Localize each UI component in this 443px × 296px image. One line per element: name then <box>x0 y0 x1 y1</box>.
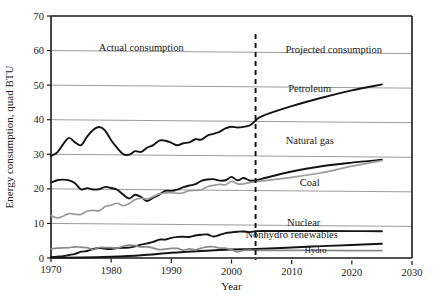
x-tick-label-1990: 1990 <box>161 265 182 276</box>
x-tick-label-1970: 1970 <box>41 264 62 275</box>
y-tick-label-50: 50 <box>34 80 45 91</box>
x-tick-label-2010: 2010 <box>281 266 302 277</box>
y-tick-label-60: 60 <box>34 45 45 56</box>
y-tick-label-0: 0 <box>39 253 44 264</box>
series-label-hydro: Hydro <box>305 245 327 255</box>
series-label-natural-gas: Natural gas <box>286 135 334 146</box>
x-tick-label-1980: 1980 <box>101 265 122 276</box>
x-tick-label-2020: 2020 <box>341 267 362 278</box>
x-tick-label-2030: 2030 <box>402 267 423 278</box>
series-label-nonhydro-renewables: Nonhydro renewables <box>245 229 337 240</box>
y-axis-title: Energy consumption, quad BTU <box>3 66 15 209</box>
series-label-nuclear: Nuclear <box>287 217 321 228</box>
y-tick-label-70: 70 <box>34 11 45 22</box>
x-tick-label-2000: 2000 <box>221 266 242 277</box>
energy-consumption-line-chart: 010203040506070 197019801990200020102020… <box>0 0 443 296</box>
y-tick-label-10: 10 <box>34 218 45 229</box>
y-tick-label-40: 40 <box>34 114 45 125</box>
chart-container: 010203040506070 197019801990200020102020… <box>0 0 443 296</box>
y-tick-label-20: 20 <box>34 183 45 194</box>
y-tick-label-30: 30 <box>34 149 45 160</box>
series-label-petroleum: Petroleum <box>288 83 331 94</box>
series-label-coal: Coal <box>300 177 320 188</box>
annotation-actual-consumption: Actual consumption <box>99 42 185 53</box>
x-axis-title: Year <box>221 280 242 292</box>
annotation-projected-consumption: Projected consumption <box>286 44 383 55</box>
